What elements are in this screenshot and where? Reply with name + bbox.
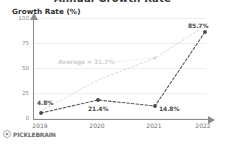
x-tick-label-2019: 2019: [26, 122, 54, 129]
gridline-75: [33, 43, 206, 44]
plot-area: [33, 18, 209, 118]
chart-title: Annual Growth Rate: [0, 0, 225, 4]
data-label-2021: 14.8%: [159, 105, 179, 112]
data-label-2020: 21.4%: [88, 105, 108, 112]
y-tick-label-0: 0: [13, 115, 29, 121]
x-tick-label-2022: 2022: [189, 122, 217, 129]
y-tick-label-25: 25: [13, 90, 29, 96]
gridline-100: [33, 18, 206, 19]
x-axis-line: [33, 119, 210, 120]
y-axis-line: [33, 20, 34, 120]
data-label-2019: 4.8%: [37, 99, 53, 106]
y-tick-label-100: 100: [13, 15, 29, 21]
y-tick-label-75: 75: [13, 40, 29, 46]
watermark: PICKLEBRAIN: [3, 130, 56, 138]
x-tick-label-2021: 2021: [140, 122, 168, 129]
gridline-50: [33, 68, 206, 69]
watermark-label: PICKLEBRAIN: [13, 131, 56, 138]
x-tick-label-2020: 2020: [83, 122, 111, 129]
pickle-logo-icon: [3, 130, 11, 138]
data-label-2022: 85.7%: [188, 22, 208, 29]
average-annotation: Average = 31.7%: [58, 58, 114, 65]
chart-canvas: Annual Growth Rate Growth Rate (%) 100 7…: [0, 0, 225, 145]
gridline-25: [33, 93, 206, 94]
y-tick-label-50: 50: [13, 65, 29, 71]
y-axis-arrow-icon: [30, 13, 38, 20]
